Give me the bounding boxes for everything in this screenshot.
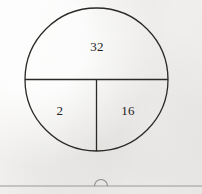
region-label-bottom-left: 2 xyxy=(57,104,64,117)
circle-diagram xyxy=(0,0,202,194)
region-label-bottom-right: 16 xyxy=(121,104,135,117)
scanned-page: 32 2 16 xyxy=(0,0,202,194)
region-label-top-half: 32 xyxy=(90,40,104,53)
semicircle-marker-icon xyxy=(95,180,108,187)
